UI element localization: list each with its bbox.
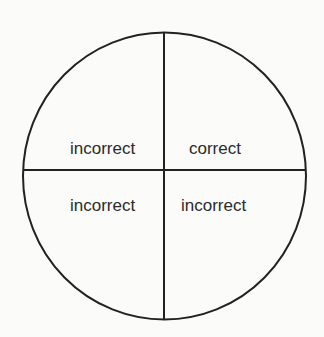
quadrant-diagram: incorrect correct incorrect incorrect [0,0,324,337]
quadrant-label-top-right: correct [189,139,241,158]
quadrant-label-bottom-left: incorrect [70,196,135,215]
quadrant-label-bottom-right: incorrect [181,196,246,215]
quadrant-label-top-left: incorrect [70,139,135,158]
